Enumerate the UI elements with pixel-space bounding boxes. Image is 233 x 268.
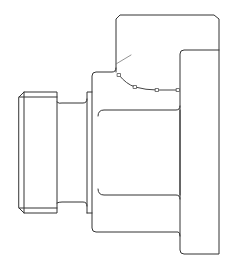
flange-outline: [116, 15, 219, 254]
hub-step-top: [92, 68, 180, 236]
point-marker: [118, 74, 121, 77]
point-marker: [177, 89, 180, 92]
point-marker: [156, 89, 159, 92]
collar-outline: [87, 92, 92, 213]
point-marker: [134, 86, 137, 89]
groove-line-top: [98, 106, 180, 116]
part-drawing: [0, 0, 233, 268]
nut-chamfer-line: [19, 92, 57, 213]
nut-outline: [19, 92, 57, 213]
drawing-canvas: [0, 0, 233, 268]
annotation-curve: [119, 75, 178, 90]
neck-outline: [57, 99, 87, 206]
groove-line-bottom: [98, 189, 180, 199]
leader-line: [116, 55, 131, 64]
